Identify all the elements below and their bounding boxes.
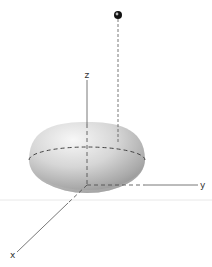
hemisphere-diagram: z y x xyxy=(0,0,212,267)
x-axis-label: x xyxy=(10,250,16,260)
y-axis-label: y xyxy=(200,180,206,190)
z-axis-label: z xyxy=(85,70,90,80)
x-axis xyxy=(17,203,68,252)
point-above-hemisphere xyxy=(114,11,122,19)
